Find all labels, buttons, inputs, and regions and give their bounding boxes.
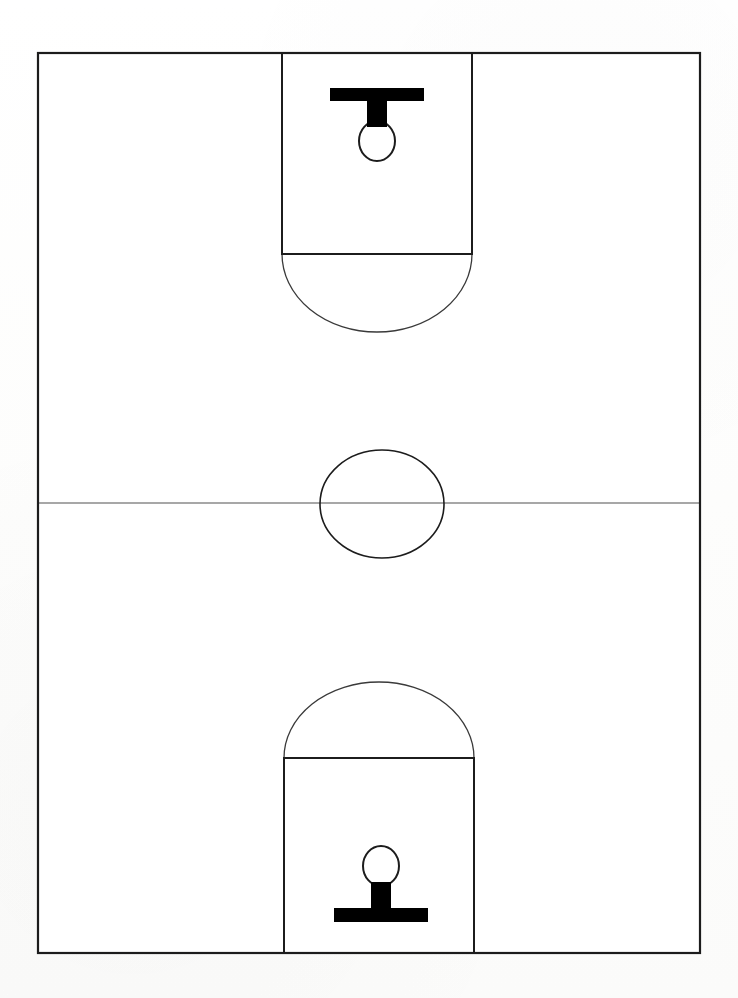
top-hoop-stem bbox=[367, 101, 387, 127]
bottom-hoop-rim-icon bbox=[363, 846, 399, 886]
bottom-backboard bbox=[334, 908, 428, 922]
top-backboard bbox=[330, 88, 424, 101]
court-svg bbox=[0, 0, 738, 998]
basketball-court-diagram bbox=[0, 0, 738, 998]
bottom-hoop-stem bbox=[371, 882, 391, 908]
